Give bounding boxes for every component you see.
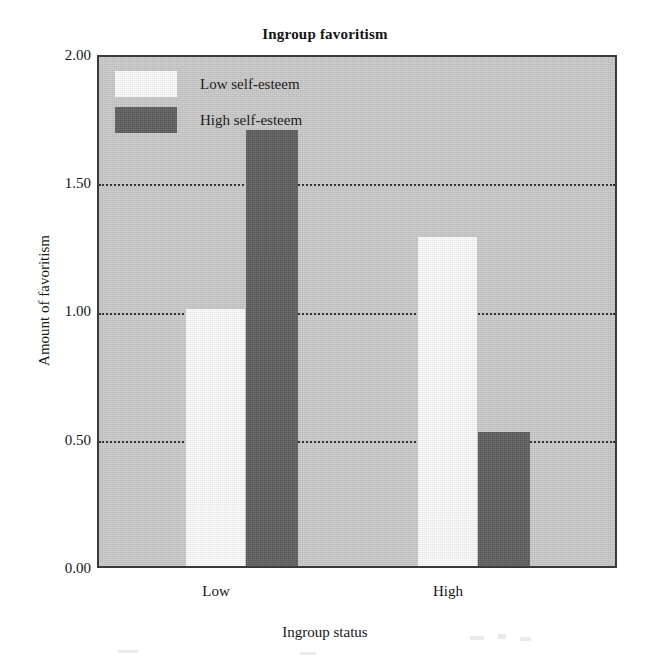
scan-speckle — [470, 636, 484, 640]
scan-speckle — [118, 650, 138, 653]
x-tick-label-low: Low — [156, 583, 276, 600]
y-tick-label-2: 2.00 — [31, 48, 91, 63]
scan-speckle — [520, 637, 531, 641]
legend-swatch-low-self-esteem — [115, 71, 177, 97]
legend-swatch-high-self-esteem — [115, 107, 177, 133]
plot-area: Low self-esteem High self-esteem — [97, 55, 617, 568]
bar-low-status-high-self-esteem — [246, 130, 298, 566]
scan-speckle — [498, 634, 506, 639]
legend-item-low-self-esteem: Low self-esteem — [115, 71, 395, 97]
bar-high-status-low-self-esteem — [418, 237, 477, 566]
y-tick-label-0: 0.00 — [31, 561, 91, 576]
gridline-0_5 — [99, 441, 615, 443]
gridline-1_0 — [99, 313, 615, 315]
y-tick-label-0_5: 0.50 — [31, 433, 91, 448]
bar-low-status-low-self-esteem — [186, 309, 245, 566]
x-axis-label: Ingroup status — [0, 624, 650, 641]
legend: Low self-esteem High self-esteem — [115, 71, 395, 143]
chart-title: Ingroup favoritism — [0, 26, 650, 43]
chart-figure: Ingroup favoritism 2.00 1.50 1.00 0.50 0… — [0, 0, 650, 665]
y-axis-label: Amount of favoritism — [36, 171, 53, 431]
legend-label-low-self-esteem: Low self-esteem — [200, 76, 300, 93]
legend-item-high-self-esteem: High self-esteem — [115, 107, 395, 133]
bar-high-status-high-self-esteem — [478, 432, 530, 566]
legend-label-high-self-esteem: High self-esteem — [200, 112, 302, 129]
x-tick-label-high: High — [388, 583, 508, 600]
scan-speckle — [300, 652, 316, 655]
gridline-1_5 — [99, 184, 615, 186]
